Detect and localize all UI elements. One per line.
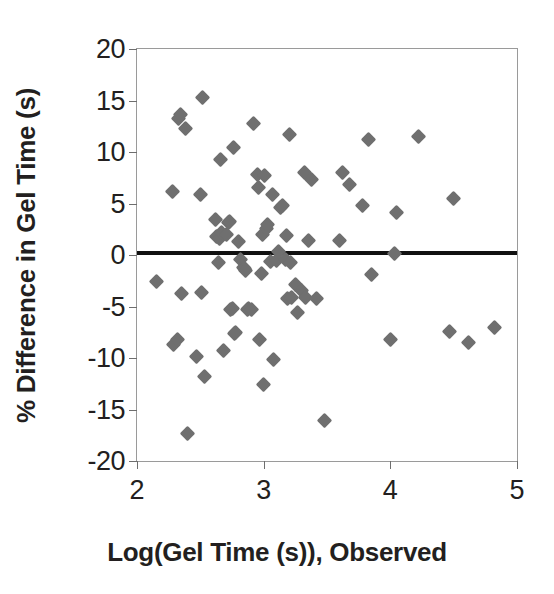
x-axis-tick bbox=[390, 461, 391, 469]
y-axis-tick bbox=[129, 410, 137, 411]
scatter-point bbox=[148, 274, 164, 290]
y-axis-tick bbox=[129, 358, 137, 359]
scatter-point bbox=[279, 228, 295, 244]
scatter-point bbox=[290, 305, 306, 321]
x-axis-tick-label: 2 bbox=[129, 475, 144, 506]
scatter-point bbox=[383, 332, 399, 348]
scatter-point bbox=[231, 234, 247, 250]
x-axis-tick-label: 5 bbox=[509, 475, 524, 506]
scatter-point bbox=[364, 267, 380, 283]
scatter-point bbox=[265, 186, 281, 202]
x-axis-tick-label: 4 bbox=[383, 475, 398, 506]
y-axis-tick-label: 0 bbox=[110, 240, 125, 271]
scatter-point bbox=[225, 140, 241, 156]
y-axis-tick bbox=[129, 49, 137, 50]
x-axis-tick bbox=[264, 461, 265, 469]
y-axis-tick-label: -20 bbox=[87, 446, 125, 477]
scatter-point bbox=[442, 323, 458, 339]
scatter-point bbox=[342, 177, 358, 193]
scatter-point bbox=[410, 129, 426, 145]
scatter-point bbox=[196, 369, 212, 385]
scatter-point bbox=[193, 186, 209, 202]
y-axis-tick-label: 15 bbox=[96, 85, 125, 116]
scatter-point bbox=[266, 351, 282, 367]
y-axis-tick-label: 5 bbox=[110, 188, 125, 219]
scatter-point bbox=[252, 332, 268, 348]
y-axis-tick-label: -5 bbox=[102, 291, 125, 322]
x-axis-tick bbox=[137, 461, 138, 469]
x-axis-tick bbox=[517, 461, 518, 469]
scatter-point bbox=[253, 266, 269, 282]
scatter-point bbox=[300, 233, 316, 249]
scatter-point bbox=[256, 377, 272, 393]
x-axis-title: Log(Gel Time (s)), Observed bbox=[0, 537, 554, 568]
scatter-point bbox=[165, 183, 181, 199]
scatter-point bbox=[332, 233, 348, 249]
scatter-point bbox=[195, 90, 211, 106]
scatter-point bbox=[281, 127, 297, 143]
scatter-point bbox=[180, 425, 196, 441]
y-axis-tick bbox=[129, 101, 137, 102]
scatter-point bbox=[189, 349, 205, 365]
y-axis-tick bbox=[129, 461, 137, 462]
scatter-point bbox=[317, 413, 333, 429]
y-axis-tick bbox=[129, 255, 137, 256]
scatter-point bbox=[210, 254, 226, 270]
scatter-point bbox=[355, 198, 371, 214]
scatter-point bbox=[213, 151, 229, 167]
scatter-point bbox=[246, 115, 262, 131]
scatter-point bbox=[386, 246, 402, 262]
plot-area: 20151050-5-10-15-202345 bbox=[136, 48, 518, 462]
y-axis-tick-label: 10 bbox=[96, 137, 125, 168]
scatter-point bbox=[446, 191, 462, 207]
x-axis-tick-label: 3 bbox=[256, 475, 271, 506]
scatter-point bbox=[194, 284, 210, 300]
y-axis-tick bbox=[129, 204, 137, 205]
y-axis-title-text: % Difference in Gel Time (s) bbox=[11, 88, 42, 423]
scatter-point bbox=[215, 343, 231, 359]
y-axis-tick-label: -10 bbox=[87, 343, 125, 374]
scatter-chart-figure: % Difference in Gel Time (s) 20151050-5-… bbox=[0, 0, 554, 594]
scatter-point bbox=[389, 205, 405, 221]
y-axis-tick bbox=[129, 307, 137, 308]
y-axis-title: % Difference in Gel Time (s) bbox=[6, 48, 46, 462]
y-axis-tick bbox=[129, 152, 137, 153]
scatter-point bbox=[309, 290, 325, 306]
reference-line bbox=[137, 251, 517, 255]
scatter-point bbox=[361, 132, 377, 148]
scatter-point bbox=[461, 335, 477, 351]
y-axis-tick-label: -15 bbox=[87, 394, 125, 425]
scatter-point bbox=[174, 285, 190, 301]
y-axis-tick-label: 20 bbox=[96, 34, 125, 65]
scatter-point bbox=[486, 319, 502, 335]
